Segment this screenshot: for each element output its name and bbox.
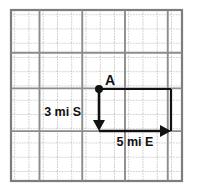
displacement-diagram: A 3 mi S 5 mi E (0, 0, 200, 185)
point-a-marker (95, 85, 103, 93)
point-a-label: A (105, 72, 115, 88)
grid-cells (11, 10, 182, 181)
diagram-canvas: A 3 mi S 5 mi E (0, 0, 200, 185)
label-3-mi-south: 3 mi S (44, 105, 81, 119)
grid-group (11, 10, 182, 181)
label-5-mi-east: 5 mi E (117, 135, 154, 149)
